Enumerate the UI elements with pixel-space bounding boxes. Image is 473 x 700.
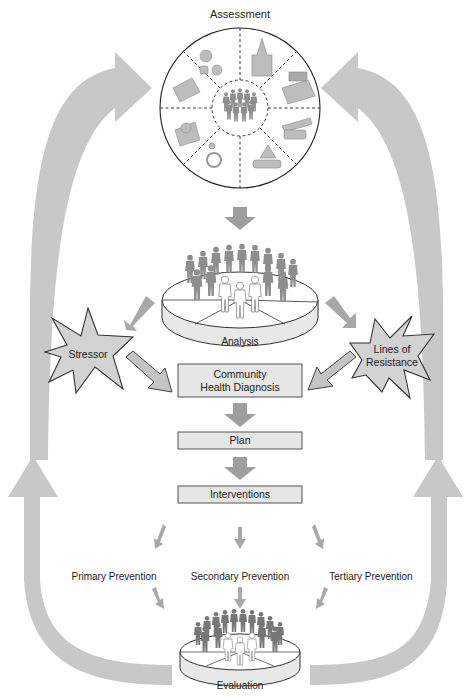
secondary-prevention-label: Secondary Prevention: [191, 571, 289, 582]
arrow-analysis-to-stressor: [124, 296, 155, 331]
arrow-analysis-to-resistance: [325, 296, 356, 328]
community-health-diagnosis-box: Community Health Diagnosis: [178, 364, 302, 397]
plan-label: Plan: [229, 434, 250, 446]
tertiary-prevention-label: Tertiary Prevention: [329, 571, 412, 582]
diagnosis-label-line1: Community: [213, 368, 267, 380]
arrow-tertiary-to-evaluation: [316, 587, 328, 609]
assessment-title: Assessment: [210, 8, 270, 20]
interventions-box: Interventions: [178, 486, 302, 503]
stressor-label: Stressor: [68, 348, 108, 360]
interventions-label: Interventions: [210, 488, 270, 500]
arrow-to-tertiary: [312, 524, 324, 549]
primary-prevention-label: Primary Prevention: [71, 571, 156, 582]
arrow-to-secondary: [234, 527, 246, 549]
evaluation-label: Evaluation: [217, 680, 264, 691]
arrow-plan-to-interventions: [224, 457, 256, 480]
plan-box: Plan: [178, 432, 302, 449]
assessment-wheel: [160, 28, 320, 188]
community-nursing-process-diagram: Assessment: [0, 0, 473, 700]
analysis-node: Analysis: [162, 244, 318, 347]
arrow-assessment-to-analysis: [224, 207, 256, 230]
analysis-label: Analysis: [221, 336, 258, 347]
evaluation-node: Evaluation: [180, 609, 300, 691]
arrow-resistance-to-diagnosis: [308, 351, 356, 390]
feedback-arrow-left-top: [30, 52, 152, 460]
feedback-arrow-right-top: [321, 52, 443, 460]
resistance-label-line1: Lines of: [374, 343, 411, 355]
arrow-stressor-to-diagnosis: [126, 351, 172, 392]
arrow-secondary-to-evaluation: [234, 587, 246, 609]
arrow-diagnosis-to-plan: [224, 403, 256, 427]
arrow-to-primary: [154, 524, 166, 549]
stressor-node: Stressor: [45, 308, 133, 393]
resistance-label-line2: Resistance: [366, 356, 418, 368]
diagnosis-label-line2: Health Diagnosis: [200, 381, 279, 393]
arrow-primary-to-evaluation: [152, 587, 164, 609]
